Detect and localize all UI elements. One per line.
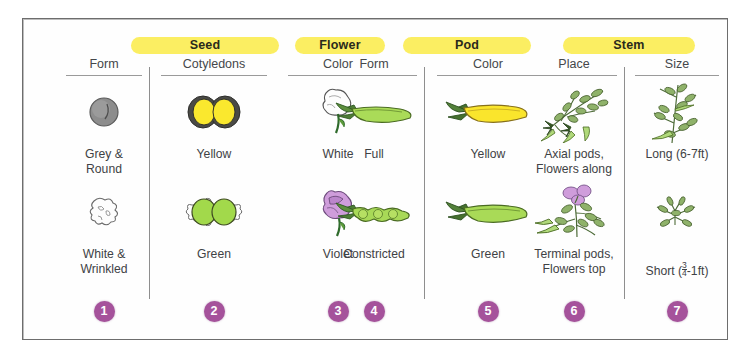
stem-short-icon [627,181,727,243]
trait-number-badge: 7 [667,301,688,322]
trait-number-badge: 6 [564,301,585,322]
chart-frame: Seed Flower Pod Stem Form Grey & Round [22,18,728,340]
trait-number-badge-wrap: 4 [323,301,425,322]
trait-label-recessive: Constricted [323,247,425,262]
cotyledon-green-icon [151,181,277,243]
trait-label-recessive: White & Wrinkled [59,247,149,276]
column-rule [66,75,142,76]
column-rule [635,75,719,76]
stem-axial-icon [523,81,625,143]
short-label-suffix: -1ft) [687,264,709,278]
column-rule [331,75,417,76]
trait-number-badge-wrap: 6 [523,301,625,322]
cotyledon-yellow-icon [151,81,277,143]
divider-seed [149,67,150,299]
stem-terminal-icon [523,181,625,243]
column-stem-place: Place [523,19,625,339]
column-header: Size [627,57,727,71]
column-stem-size: Size [627,19,727,339]
trait-number-badge: 4 [364,301,385,322]
column-pod-form: Form Full [323,19,425,339]
seed-white-wrinkled-icon [59,181,149,243]
trait-number-badge: 5 [478,301,499,322]
trait-label-dominant: Yellow [151,147,277,162]
column-header: Place [523,57,625,71]
column-rule [161,75,267,76]
pod-full-icon [323,81,425,143]
trait-number-badge: 1 [94,301,115,322]
column-seed-form: Form Grey & Round White & Wrinkled [59,19,149,339]
trait-label-recessive: Green [151,247,277,262]
trait-label-recessive: Short (34-1ft) [627,247,727,278]
column-seed-cotyledons: Cotyledons Yellow [151,19,277,339]
trait-label-dominant: Long (6-7ft) [627,147,727,162]
trait-label-dominant: Axial pods, Flowers along [523,147,625,176]
trait-label-dominant: Grey & Round [59,147,149,176]
trait-number-badge-wrap: 2 [151,301,277,322]
pod-constricted-icon [323,181,425,243]
trait-label-recessive: Terminal pods, Flowers top [523,247,625,276]
column-header: Form [59,57,149,71]
short-label-prefix: Short ( [646,264,683,278]
trait-number-badge: 2 [204,301,225,322]
trait-label-dominant: Full [323,147,425,162]
seed-grey-round-icon [59,81,149,143]
column-header: Form [323,57,425,71]
trait-number-badge-wrap: 7 [627,301,727,322]
trait-number-badge-wrap: 1 [59,301,149,322]
trait-grid: Seed Flower Pod Stem Form Grey & Round [23,19,727,339]
stem-long-icon [627,81,727,143]
column-header: Cotyledons [151,57,277,71]
column-rule [531,75,617,76]
